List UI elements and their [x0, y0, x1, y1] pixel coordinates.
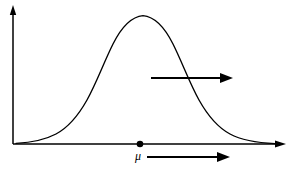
mean-dot-marker	[137, 141, 144, 148]
x-axis-arrowhead-icon	[275, 141, 286, 148]
axes-group	[10, 5, 286, 147]
shift-arrow-upper-head-icon	[220, 73, 233, 83]
shift-arrow-upper	[151, 73, 233, 83]
normal-distribution-figure: μ	[0, 0, 289, 170]
distribution-curve-group	[16, 16, 275, 144]
mean-symbol-label: μ	[131, 148, 145, 164]
shift-arrow-lower-head-icon	[217, 152, 230, 162]
shift-arrow-lower	[147, 152, 230, 162]
y-axis-arrowhead-icon	[10, 5, 16, 15]
normal-curve	[16, 16, 275, 144]
figure-canvas	[0, 0, 289, 170]
mean-marker-group	[137, 141, 144, 148]
